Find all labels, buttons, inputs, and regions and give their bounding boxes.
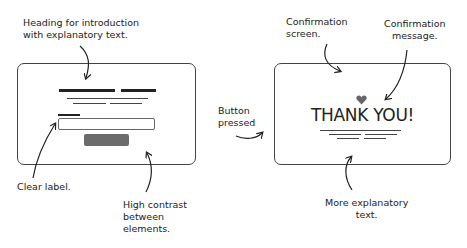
arrow-to-more-text — [346, 157, 352, 190]
arrow-to-label — [33, 124, 55, 178]
arrow-to-confirmation-message — [386, 50, 407, 99]
arrow-to-button — [146, 153, 151, 192]
arrow-to-heading — [80, 46, 88, 78]
arrow-to-confirmation-screen — [325, 44, 340, 71]
arrows-layer — [0, 0, 467, 248]
arrow-button-pressed — [236, 133, 262, 138]
